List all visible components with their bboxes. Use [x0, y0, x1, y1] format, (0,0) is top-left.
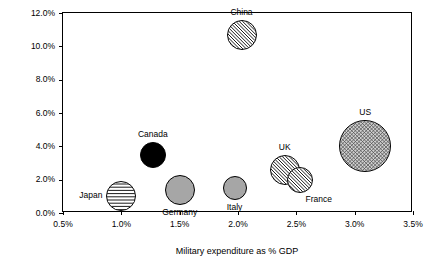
x-tick-mark	[121, 211, 122, 215]
x-tick-mark	[355, 211, 356, 215]
x-tick-label: 3.0%	[335, 219, 375, 230]
data-point-label: US	[358, 107, 372, 118]
x-tick-label: 0.5%	[43, 219, 83, 230]
data-point-label: Italy	[220, 202, 249, 213]
x-tick-mark	[63, 211, 64, 215]
data-point-label: UK	[278, 142, 292, 153]
y-tick-label: 0.0%	[11, 208, 55, 219]
data-point-bubble[interactable]	[287, 167, 313, 193]
data-point-label: China	[227, 7, 256, 18]
data-point-bubble[interactable]	[339, 120, 391, 172]
x-axis-label: Military expenditure as % GDP	[62, 246, 412, 256]
x-tick-label: 3.5%	[393, 219, 433, 230]
data-point-label: Germany	[160, 207, 199, 218]
data-point-bubble[interactable]	[223, 176, 247, 200]
data-point-bubble[interactable]	[227, 20, 257, 50]
bubble-pattern-horizontal-lines	[107, 182, 136, 211]
x-tick-label: 2.5%	[276, 219, 316, 230]
y-tick-mark	[59, 180, 63, 181]
bubble-pattern-diagonal-lines	[288, 168, 313, 193]
x-tick-mark	[296, 211, 297, 215]
y-tick-label: 6.0%	[11, 108, 55, 119]
y-tick-mark	[59, 113, 63, 114]
x-tick-label: 1.5%	[160, 219, 200, 230]
plot-area: 0.0%2.0%4.0%6.0%8.0%10.0%12.0%0.5%1.0%1.…	[62, 12, 412, 212]
x-tick-label: 1.0%	[101, 219, 141, 230]
y-tick-label: 10.0%	[11, 41, 55, 52]
y-tick-label: 12.0%	[11, 8, 55, 19]
data-point-label: Japan	[76, 190, 105, 201]
y-tick-mark	[59, 80, 63, 81]
x-tick-mark	[413, 211, 414, 215]
y-tick-mark	[59, 13, 63, 14]
y-tick-label: 8.0%	[11, 74, 55, 85]
y-tick-label: 4.0%	[11, 141, 55, 152]
data-point-bubble[interactable]	[165, 175, 195, 205]
y-tick-mark	[59, 146, 63, 147]
data-point-label: Canada	[136, 129, 170, 140]
y-tick-mark	[59, 46, 63, 47]
bubble-pattern-crosshatch	[340, 121, 391, 172]
data-point-label: France	[302, 194, 336, 205]
bubble-pattern-diagonal-lines	[228, 21, 257, 50]
x-tick-label: 2.0%	[218, 219, 258, 230]
data-point-bubble[interactable]	[106, 181, 136, 211]
y-tick-label: 2.0%	[11, 174, 55, 185]
data-point-bubble[interactable]	[140, 142, 166, 168]
bubble-chart: Growth trajectory (annual growth rate) M…	[0, 0, 446, 269]
